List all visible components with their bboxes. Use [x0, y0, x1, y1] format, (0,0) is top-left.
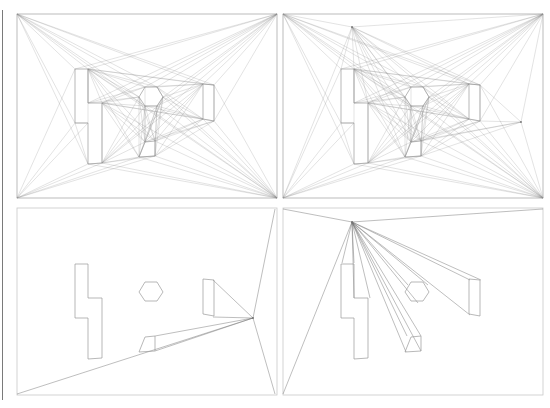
panel-bottom-right-visible-vertices	[283, 208, 543, 395]
obstacle-small-quad	[139, 141, 155, 157]
obstacle-hexagon	[139, 87, 163, 106]
panel-top-right-visibility-graph-with-start-goal	[283, 14, 543, 198]
obstacle-l-shape	[341, 264, 368, 359]
obstacle-small-quad	[405, 336, 421, 352]
obstacle-l-shape	[75, 69, 102, 164]
panel-top-left-full-visibility-graph	[17, 14, 277, 198]
visibility-graph-figure	[0, 0, 550, 408]
obstacle-right-quad	[203, 84, 214, 121]
visibility-star-edges	[283, 209, 543, 394]
panel-bottom-left-visible-vertices	[17, 208, 277, 395]
graph-node	[520, 121, 522, 123]
visibility-star-edges	[17, 209, 275, 394]
obstacle-right-quad	[469, 84, 480, 121]
query-point	[252, 317, 254, 319]
graph-node	[351, 26, 353, 28]
panel-border	[17, 208, 277, 395]
obstacle-hexagon	[139, 282, 163, 301]
obstacle-right-quad	[469, 279, 480, 316]
query-point	[351, 221, 353, 223]
obstacle-small-quad	[139, 336, 155, 352]
panel-border	[283, 208, 543, 395]
obstacle-l-shape	[75, 264, 102, 359]
obstacle-small-quad	[405, 141, 421, 157]
obstacle-right-quad	[203, 279, 214, 316]
